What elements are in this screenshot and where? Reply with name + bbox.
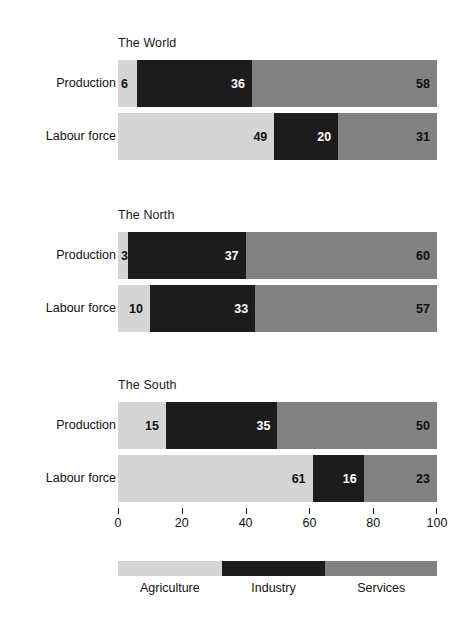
bar-segment-industry: 16 (313, 455, 364, 502)
bar-segment-agriculture: 49 (118, 113, 274, 160)
row-label: Production (56, 402, 116, 449)
bar-segment-agriculture: 61 (118, 455, 313, 502)
stacked-bar: 63658 (118, 60, 437, 107)
axis-tick-label: 0 (115, 516, 122, 530)
stacked-bar: 492031 (118, 113, 437, 160)
bar-segment-services: 50 (277, 402, 437, 449)
chart-row: Production153550 (0, 402, 465, 449)
group-title: The South (118, 378, 177, 392)
legend-label-services: Services (357, 581, 405, 595)
axis-tick-label: 100 (427, 516, 448, 530)
bar-segment-agriculture: 15 (118, 402, 166, 449)
legend-swatch-agriculture (118, 561, 222, 576)
bar-segment-services: 60 (246, 232, 437, 279)
chart-row: Production63658 (0, 60, 465, 107)
group-title: The North (118, 208, 174, 222)
chart-row: Labour force492031 (0, 113, 465, 160)
legend-label-industry: Industry (251, 581, 295, 595)
bar-segment-agriculture: 6 (118, 60, 137, 107)
bar-segment-industry: 35 (166, 402, 278, 449)
stacked-bar: 33760 (118, 232, 437, 279)
legend-labels: AgricultureIndustryServices (118, 581, 437, 601)
group-title: The World (118, 36, 176, 50)
bar-segment-services: 31 (338, 113, 437, 160)
legend-swatches (118, 561, 437, 576)
bar-segment-services: 58 (252, 60, 437, 107)
bar-segment-industry: 20 (274, 113, 338, 160)
bar-segment-agriculture: 3 (118, 232, 128, 279)
axis-tick-label: 20 (175, 516, 189, 530)
row-label: Production (56, 232, 116, 279)
bar-segment-industry: 33 (150, 285, 255, 332)
axis-tick-label: 40 (239, 516, 253, 530)
bar-segment-services: 23 (364, 455, 437, 502)
bar-segment-industry: 37 (128, 232, 246, 279)
chart-row: Labour force103357 (0, 285, 465, 332)
axis-tick-label: 80 (366, 516, 380, 530)
legend-swatch-industry (222, 561, 326, 576)
row-label: Labour force (46, 113, 116, 160)
chart-row: Labour force611623 (0, 455, 465, 502)
stacked-bar: 103357 (118, 285, 437, 332)
axis-tick (246, 508, 247, 514)
axis-tick-label: 60 (302, 516, 316, 530)
stacked-bar-chart: The WorldProduction63658Labour force4920… (0, 0, 465, 635)
row-label: Labour force (46, 455, 116, 502)
row-label: Labour force (46, 285, 116, 332)
stacked-bar: 153550 (118, 402, 437, 449)
axis-tick (118, 508, 119, 514)
x-axis: 020406080100 (118, 508, 437, 538)
stacked-bar: 611623 (118, 455, 437, 502)
axis-tick (309, 508, 310, 514)
legend-label-agriculture: Agriculture (140, 581, 200, 595)
axis-tick (373, 508, 374, 514)
bar-segment-services: 57 (255, 285, 437, 332)
chart-legend: AgricultureIndustryServices (118, 561, 437, 601)
bar-segment-industry: 36 (137, 60, 252, 107)
chart-row: Production33760 (0, 232, 465, 279)
axis-tick (436, 508, 437, 514)
row-label: Production (56, 60, 116, 107)
legend-swatch-services (325, 561, 437, 576)
axis-tick (182, 508, 183, 514)
bar-segment-agriculture: 10 (118, 285, 150, 332)
